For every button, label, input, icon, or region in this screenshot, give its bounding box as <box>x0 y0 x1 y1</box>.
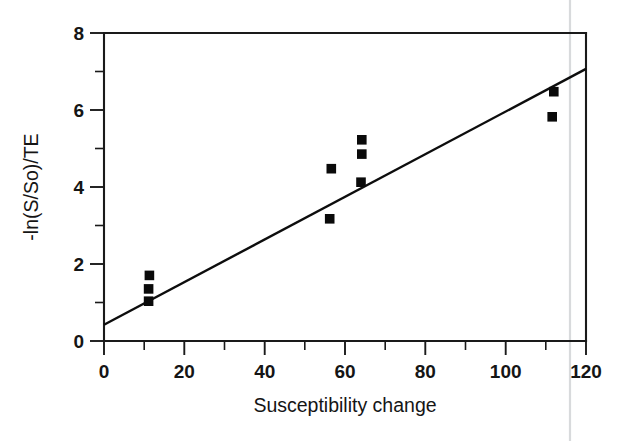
data-point <box>144 284 154 294</box>
data-point <box>357 149 367 159</box>
data-point <box>145 271 155 281</box>
x-tick-label: 120 <box>570 361 602 382</box>
x-tick-label: 60 <box>334 361 355 382</box>
y-axis-tick-labels: 0 2 4 6 8 <box>73 23 84 352</box>
y-tick-label: 4 <box>73 177 84 198</box>
y-tick-label: 0 <box>73 331 84 352</box>
y-tick-label: 6 <box>73 100 84 121</box>
scatter-plot-svg: 0 2 4 6 8 0 20 40 60 80 100 120 Suscepti… <box>0 0 630 441</box>
data-point <box>325 214 335 224</box>
x-tick-label: 100 <box>490 361 522 382</box>
y-axis-title: -ln(S/So)/TE <box>20 133 42 240</box>
data-point <box>144 296 154 306</box>
chart-figure: 0 2 4 6 8 0 20 40 60 80 100 120 Suscepti… <box>0 0 630 441</box>
x-axis-tick-labels: 0 20 40 60 80 100 120 <box>99 361 602 382</box>
y-tick-label: 8 <box>73 23 84 44</box>
x-axis-major-ticks <box>104 341 586 355</box>
y-tick-label: 2 <box>73 254 84 275</box>
plot-frame <box>104 33 586 341</box>
x-tick-label: 80 <box>415 361 436 382</box>
x-tick-label: 0 <box>99 361 110 382</box>
data-point <box>549 87 559 97</box>
trend-line <box>104 69 586 325</box>
x-tick-label: 20 <box>174 361 195 382</box>
x-axis-title: Susceptibility change <box>253 394 436 416</box>
data-markers <box>144 87 559 306</box>
y-axis-major-ticks <box>90 33 104 341</box>
data-point <box>547 112 557 122</box>
data-point <box>327 164 337 174</box>
x-tick-label: 40 <box>254 361 275 382</box>
data-point <box>356 177 366 187</box>
data-point <box>357 135 367 145</box>
